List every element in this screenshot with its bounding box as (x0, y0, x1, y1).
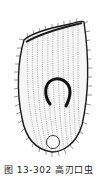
contractile-vacuole (47, 136, 60, 149)
figure-caption: 图 13-302 高刃口虫 (4, 163, 107, 177)
ciliate-illustration (0, 0, 107, 160)
